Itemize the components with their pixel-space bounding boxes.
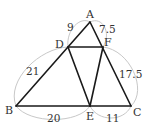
edge-ef xyxy=(90,47,103,106)
measure-label-db: 21 xyxy=(26,65,39,77)
vertex-label-c: C xyxy=(133,106,141,119)
measure-label-be: 20 xyxy=(47,112,60,124)
vertex-label-a: A xyxy=(85,8,95,21)
vertex-label-e: E xyxy=(86,110,94,123)
vertex-label-f: F xyxy=(104,36,112,49)
measure-label-af: 7.5 xyxy=(99,23,116,35)
vertex-label-b: B xyxy=(5,104,13,117)
measure-label-ad: 9 xyxy=(67,21,74,33)
measure-label-fc: 17.5 xyxy=(119,68,142,80)
triangle-diagram: A B C D E F 9 7.5 21 17.5 20 11 xyxy=(0,0,153,129)
edge-de xyxy=(68,47,90,106)
vertex-label-d: D xyxy=(55,38,64,51)
measure-label-ec: 11 xyxy=(106,112,119,124)
edge-ab xyxy=(16,22,90,106)
